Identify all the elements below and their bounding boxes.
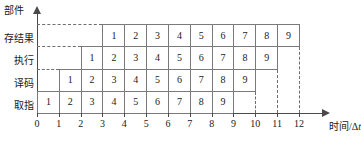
- stage-cell: 2: [81, 69, 104, 92]
- x-tick-label: 1: [51, 118, 67, 129]
- stage-cell: 7: [212, 46, 235, 69]
- x-tick-mark: [190, 113, 191, 117]
- x-tick-mark: [124, 113, 125, 117]
- stage-row-label-0: 取指: [0, 97, 34, 112]
- stage-cell: 6: [212, 24, 235, 47]
- x-tick-label: 12: [291, 118, 307, 129]
- stage-cell: 5: [190, 24, 213, 47]
- x-tick-mark: [277, 113, 278, 117]
- horizontal-guide-line: [37, 46, 81, 47]
- stage-cell: 9: [212, 91, 235, 114]
- x-axis-title-main: 时间/Δ: [329, 121, 358, 132]
- stage-cell: 4: [146, 46, 169, 69]
- stage-cell: 4: [168, 24, 191, 47]
- x-tick-label: 7: [182, 118, 198, 129]
- x-tick-mark: [168, 113, 169, 117]
- x-tick-label: 8: [204, 118, 220, 129]
- x-tick-mark: [37, 113, 38, 117]
- x-tick-mark: [212, 113, 213, 117]
- x-axis-title: 时间/Δt: [329, 118, 361, 133]
- stage-cell: 8: [233, 46, 256, 69]
- stage-row-label-1: 译码: [0, 75, 34, 90]
- stage-row-label-3: 存结果: [0, 30, 34, 45]
- x-tick-mark: [233, 113, 234, 117]
- stage-cell: 7: [168, 91, 191, 114]
- y-axis-title: 部件: [4, 2, 24, 17]
- stage-cell: 5: [168, 46, 191, 69]
- stage-cell: 9: [255, 46, 278, 69]
- x-tick-label: 11: [269, 118, 285, 129]
- horizontal-guide-line: [37, 24, 102, 25]
- x-tick-label: 0: [29, 118, 45, 129]
- stage-cell: 9: [277, 24, 300, 47]
- stage-cell: 3: [102, 69, 125, 92]
- stage-cell: 2: [59, 91, 82, 114]
- vertical-guide-line: [277, 70, 278, 114]
- vertical-guide-line: [255, 92, 256, 113]
- x-tick-label: 10: [247, 118, 263, 129]
- stage-cell: 8: [255, 24, 278, 47]
- horizontal-guide-line: [37, 69, 59, 70]
- x-tick-mark: [102, 113, 103, 117]
- x-tick-mark: [59, 113, 60, 117]
- x-tick-label: 5: [138, 118, 154, 129]
- x-tick-label: 4: [116, 118, 132, 129]
- stage-cell: 4: [102, 91, 125, 114]
- stage-cell: 9: [233, 69, 256, 92]
- pipeline-timing-diagram: 部件 时间/Δt 取指123456789译码123456789执行1234567…: [0, 0, 361, 142]
- x-tick-label: 9: [225, 118, 241, 129]
- x-tick-mark: [299, 113, 300, 117]
- stage-cell: 6: [190, 46, 213, 69]
- x-tick-mark: [81, 113, 82, 117]
- y-axis-arrow-icon: [33, 6, 41, 14]
- stage-cell: 1: [59, 69, 82, 92]
- stage-row-label-2: 执行: [0, 52, 34, 67]
- stage-cell: 8: [212, 69, 235, 92]
- stage-cell: 4: [124, 69, 147, 92]
- stage-cell: 8: [190, 91, 213, 114]
- stage-cell: 5: [146, 69, 169, 92]
- stage-cell: 7: [190, 69, 213, 92]
- stage-cell: 1: [81, 46, 104, 69]
- x-tick-label: 2: [73, 118, 89, 129]
- stage-cell: 6: [146, 91, 169, 114]
- stage-cell: 1: [37, 91, 60, 114]
- stage-cell: 3: [146, 24, 169, 47]
- x-tick-mark: [255, 113, 256, 117]
- x-tick-mark: [146, 113, 147, 117]
- stage-cell: 1: [102, 24, 125, 47]
- stage-cell: 3: [124, 46, 147, 69]
- stage-cell: 2: [124, 24, 147, 47]
- stage-cell: 5: [124, 91, 147, 114]
- stage-cell: 6: [168, 69, 191, 92]
- stage-cell: 2: [102, 46, 125, 69]
- stage-cell: 3: [81, 91, 104, 114]
- x-tick-label: 3: [94, 118, 110, 129]
- x-tick-label: 6: [160, 118, 176, 129]
- vertical-guide-line: [299, 47, 300, 113]
- stage-cell: 7: [233, 24, 256, 47]
- x-axis-arrow-icon: [322, 109, 330, 117]
